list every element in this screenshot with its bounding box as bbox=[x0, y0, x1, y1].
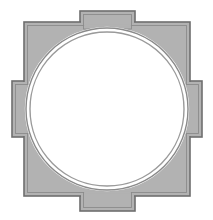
rule-seam-top bbox=[84, 24, 131, 26]
mandala-diagram-canvas: Mandala Ground Plan Square cruciform pla… bbox=[0, 0, 213, 220]
seam-top bbox=[81, 21, 134, 24]
rule-seam-bottom bbox=[84, 191, 131, 193]
mandala-diagram-svg: Mandala Ground Plan Square cruciform pla… bbox=[0, 0, 213, 220]
seam-bottom bbox=[81, 195, 134, 198]
